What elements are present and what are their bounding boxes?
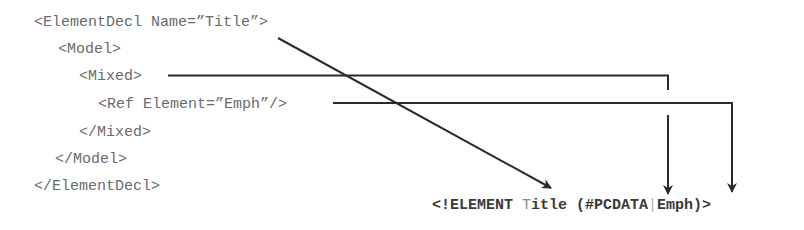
mixed-connector (168, 76, 668, 91)
dtd-title-rest: itle (531, 197, 567, 214)
dtd-prefix: <!ELEMENT (432, 197, 522, 214)
connector-arrows (0, 0, 804, 230)
dtd-emph: Emph (657, 197, 693, 214)
dtd-element-declaration: <!ELEMENT Title (#PCDATA|Emph)> (432, 197, 711, 215)
dtd-separator: | (648, 197, 657, 214)
dtd-pcdata: (#PCDATA (567, 197, 648, 214)
dtd-close: )> (693, 197, 711, 214)
dtd-title-first-letter: T (522, 197, 531, 214)
title-arrow (278, 38, 551, 188)
xml-to-dtd-diagram: <ElementDecl Name=”Title”> <Model> <Mixe… (0, 0, 804, 230)
